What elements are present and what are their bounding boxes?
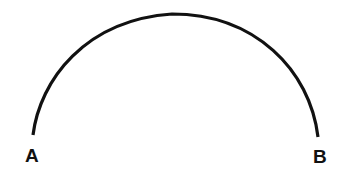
arc-curve [33,14,318,137]
arc-drawing [0,0,341,173]
point-label-a: A [25,146,39,165]
point-label-b: B [313,147,327,166]
diagram-canvas: A B [0,0,341,173]
